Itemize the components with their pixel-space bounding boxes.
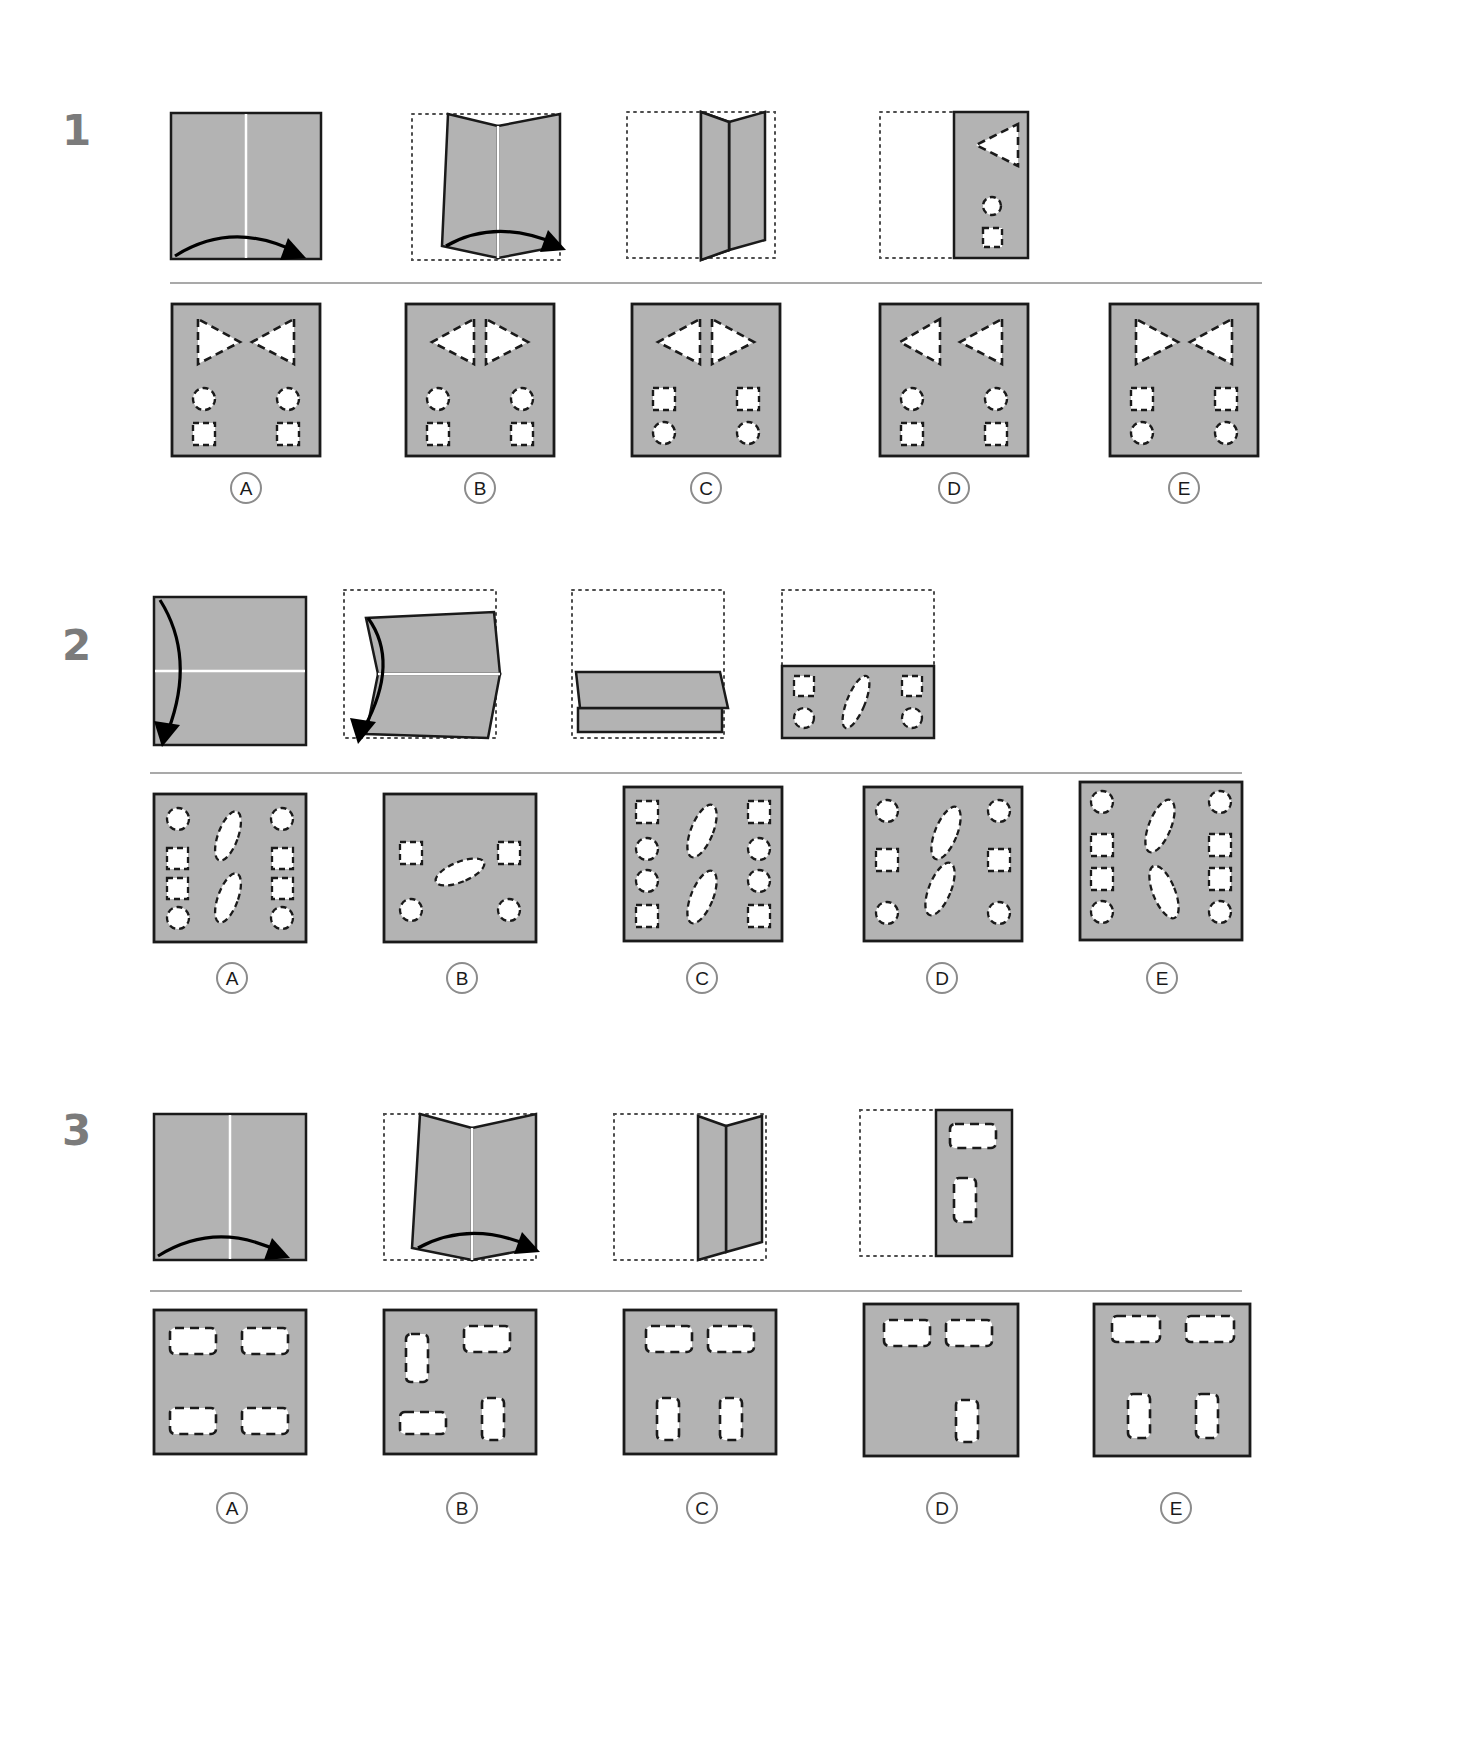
fold-step-1-1 (170, 112, 322, 260)
option-label-2-A[interactable]: A (216, 962, 248, 994)
fold-step-1-3 (625, 100, 795, 268)
fold-step-3-3 (612, 1100, 788, 1268)
option-label-1-D[interactable]: D (938, 472, 970, 504)
option-label-1-B[interactable]: B (464, 472, 496, 504)
fold-step-2-4 (780, 588, 960, 748)
option-3-D[interactable] (862, 1302, 1020, 1458)
option-1-B[interactable] (404, 302, 556, 458)
fold-step-3-2 (382, 1100, 568, 1264)
option-label-3-B[interactable]: B (446, 1492, 478, 1524)
fold-step-1-2 (410, 100, 590, 262)
option-2-A[interactable] (152, 792, 308, 944)
option-2-B[interactable] (382, 792, 538, 944)
question-divider-3 (150, 1290, 1242, 1292)
option-label-1-A[interactable]: A (230, 472, 262, 504)
option-2-D[interactable] (862, 785, 1024, 945)
fold-step-2-3 (570, 588, 750, 748)
option-label-2-B[interactable]: B (446, 962, 478, 994)
option-label-3-C[interactable]: C (686, 1492, 718, 1524)
fold-step-3-1 (152, 1112, 310, 1262)
option-label-2-E[interactable]: E (1146, 962, 1178, 994)
question-number-2: 2 (62, 625, 91, 667)
question-block-2: 2 (0, 580, 1480, 1040)
option-label-1-E[interactable]: E (1168, 472, 1200, 504)
option-label-2-C[interactable]: C (686, 962, 718, 994)
option-1-A[interactable] (170, 302, 322, 458)
option-2-E[interactable] (1078, 780, 1244, 944)
option-label-2-D[interactable]: D (926, 962, 958, 994)
option-label-3-D[interactable]: D (926, 1492, 958, 1524)
fold-step-2-1 (152, 595, 310, 755)
option-3-E[interactable] (1092, 1302, 1252, 1458)
option-3-B[interactable] (382, 1308, 538, 1456)
test-sheet: 1 (0, 0, 1480, 1762)
question-block-1: 1 (0, 0, 1480, 540)
fold-step-1-4 (878, 110, 1036, 262)
option-label-3-E[interactable]: E (1160, 1492, 1192, 1524)
fold-step-2-2 (342, 588, 532, 758)
option-2-C[interactable] (622, 785, 784, 945)
option-1-D[interactable] (878, 302, 1030, 458)
question-divider-2 (150, 772, 1242, 774)
option-label-1-C[interactable]: C (690, 472, 722, 504)
option-label-3-A[interactable]: A (216, 1492, 248, 1524)
option-3-C[interactable] (622, 1308, 778, 1456)
question-number-1: 1 (62, 110, 91, 152)
option-3-A[interactable] (152, 1308, 308, 1456)
question-number-3: 3 (62, 1110, 91, 1152)
question-divider-1 (170, 282, 1262, 284)
option-1-C[interactable] (630, 302, 782, 458)
fold-step-3-4 (858, 1108, 1024, 1264)
question-block-3: 3 (0, 1090, 1480, 1590)
option-1-E[interactable] (1108, 302, 1260, 458)
